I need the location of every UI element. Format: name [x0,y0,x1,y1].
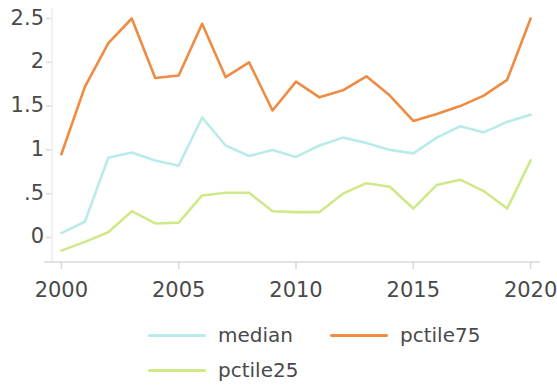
legend-line-icon-pctile25 [148,369,206,372]
series-line-pctile25 [61,160,530,250]
y-axis-labels: 0.511.522.5 [0,0,44,300]
y-tick-label: 1.5 [6,95,44,116]
y-tick-label: 0 [6,226,44,247]
series-line-pctile75 [61,19,530,155]
legend-label-median: median [218,325,293,345]
legend-item-pctile25[interactable]: pctile25 [148,358,298,382]
y-tick-label: 2 [6,51,44,72]
chart-legend: median pctile75 pctile25 [0,322,548,391]
y-tick-label: .5 [6,183,44,204]
y-tick-label: 2.5 [6,8,44,29]
legend-line-icon-median [148,334,206,337]
x-axis-tick-marks [61,262,530,269]
series-line-median [61,115,530,233]
legend-item-median[interactable]: median [148,323,293,347]
legend-label-pctile25: pctile25 [218,360,298,380]
y-tick-label: 1 [6,139,44,160]
legend-item-pctile75[interactable]: pctile75 [330,323,480,347]
legend-line-icon-pctile75 [330,334,388,337]
data-series-group [61,19,530,251]
legend-label-pctile75: pctile75 [400,325,480,345]
y-axis-tick-marks [46,8,52,262]
